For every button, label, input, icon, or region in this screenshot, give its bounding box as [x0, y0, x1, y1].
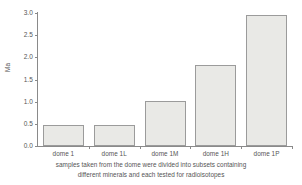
x-axis-label: dome 1H	[190, 149, 241, 158]
figure-caption: samples taken from the dome were divided…	[0, 160, 302, 179]
y-axis-tick: 3.0	[0, 13, 38, 14]
bar	[94, 125, 135, 146]
caption-line-2: different minerals and each tested for r…	[0, 170, 302, 180]
y-axis-tick-label: 2.0	[24, 52, 33, 61]
bar	[246, 15, 287, 146]
caption-line-1: samples taken from the dome were divided…	[0, 160, 302, 170]
x-axis-label: dome 1M	[140, 149, 191, 158]
y-axis-tick: 1.0	[0, 102, 38, 103]
x-axis-line	[37, 146, 293, 147]
bar	[43, 125, 84, 146]
y-axis-tick: 0.5	[0, 124, 38, 125]
bar-chart-figure: Ma 0.00.51.01.52.02.53.0 dome 1dome 1Ldo…	[0, 0, 302, 185]
y-axis-tick-label: 1.5	[24, 75, 33, 84]
y-axis-tick-label: 1.0	[24, 97, 33, 106]
y-axis-tick-label: 0.0	[24, 141, 33, 150]
bar	[195, 65, 236, 146]
y-axis-tick: 2.0	[0, 57, 38, 58]
x-axis-label: dome 1P	[241, 149, 292, 158]
y-axis-tick: 2.5	[0, 35, 38, 36]
plot-area	[38, 13, 292, 146]
bar	[145, 101, 186, 146]
x-axis-label: dome 1L	[89, 149, 140, 158]
y-axis-tick-label: 0.5	[24, 119, 33, 128]
y-axis-title: Ma	[4, 63, 11, 72]
y-axis-tick: 0.0	[0, 146, 38, 147]
y-axis-tick-label: 2.5	[24, 30, 33, 39]
y-axis-tick-label: 3.0	[24, 8, 33, 17]
x-axis-label: dome 1	[38, 149, 89, 158]
y-axis-tick: 1.5	[0, 80, 38, 81]
x-axis-tick-mark	[292, 146, 293, 149]
